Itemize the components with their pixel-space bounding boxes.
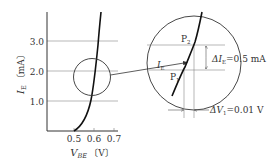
diode-characteristic-diagram: 3.0 2.0 1.0 0.5 0.6 0.7 IE〔mA〕 VBE〔V〕 xyxy=(0,0,279,164)
x-tick-label-07: 0.7 xyxy=(107,134,122,144)
x-axis-label: VBE〔V〕 xyxy=(70,147,113,160)
x-tick-label-06: 0.6 xyxy=(87,134,102,144)
magnified-curve xyxy=(172,12,202,96)
main-graph: 3.0 2.0 1.0 0.5 0.6 0.7 IE〔mA〕 VBE〔V〕 xyxy=(15,12,121,160)
ie-label: IE xyxy=(156,60,165,71)
point-p1-label: P1 xyxy=(170,72,180,83)
x-tick-label-05: 0.5 xyxy=(67,134,82,144)
svg-text:IE〔mA〕: IE〔mA〕 xyxy=(15,50,28,95)
ie-vbe-curve xyxy=(74,12,101,131)
delta-ie-label: ΔIE=0.5 mA xyxy=(211,54,266,65)
y-tick-label-1: 1.0 xyxy=(30,97,45,107)
y-axis-label: IE〔mA〕 xyxy=(15,50,28,95)
point-p2-label: P2 xyxy=(181,34,191,45)
magnified-view: P2 P1 IE ΔIE=0.5 mA ΔV1=0.01 V xyxy=(147,12,266,118)
delta-v-label: ΔV1=0.01 V xyxy=(209,105,264,116)
y-tick-label-2: 2.0 xyxy=(30,67,45,77)
y-tick-label-3: 3.0 xyxy=(30,37,45,47)
